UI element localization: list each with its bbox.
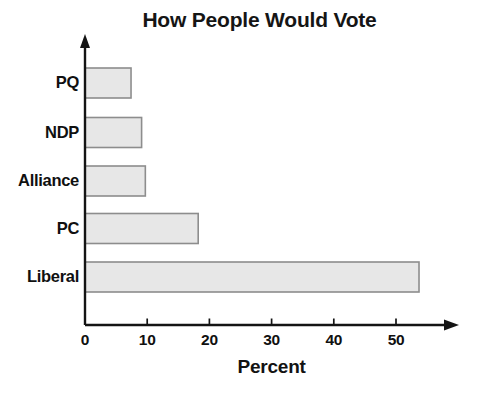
x-tick-label-20: 20 (179, 331, 239, 349)
bar-pq (85, 68, 131, 98)
y-tick-label-liberal: Liberal (0, 267, 79, 286)
y-tick-label-pq: PQ (0, 73, 79, 92)
x-tick-label-50: 50 (366, 331, 426, 349)
bar-liberal (85, 262, 419, 292)
y-tick-label-pc: PC (0, 219, 79, 238)
x-axis-arrow (444, 320, 459, 331)
x-tick-label-30: 30 (242, 331, 302, 349)
bars-group (85, 68, 419, 292)
y-tick-label-alliance: Alliance (0, 171, 79, 190)
x-tick-label-40: 40 (304, 331, 364, 349)
bar-chart: How People Would Vote LiberalPCAllianceN… (0, 0, 479, 393)
bar-pc (85, 214, 198, 244)
x-tick-label-10: 10 (117, 331, 177, 349)
y-axis-arrow (80, 34, 90, 48)
bar-ndp (85, 118, 142, 148)
y-tick-label-ndp: NDP (0, 123, 79, 142)
x-tick-label-0: 0 (55, 331, 115, 349)
x-axis-title: Percent (85, 356, 458, 378)
bar-alliance (85, 166, 145, 196)
